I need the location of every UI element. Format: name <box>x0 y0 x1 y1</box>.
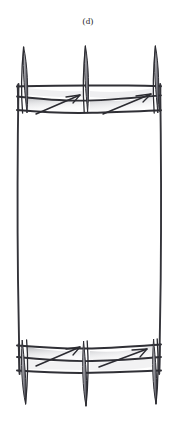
technical-sketch-drawing <box>0 0 176 444</box>
top-post-center <box>83 46 88 112</box>
top-post-right-body <box>155 46 159 113</box>
bottom-rail-lower <box>17 370 161 373</box>
bottom-rail-upper <box>17 344 161 348</box>
bottom-post-left-body <box>22 340 26 404</box>
top-corner-stub-left <box>18 85 19 111</box>
side-rail-right <box>159 84 161 374</box>
side-rail-group <box>18 84 161 374</box>
bottom-corner-stub-left <box>19 344 20 372</box>
top-post-right <box>153 46 158 113</box>
top-corner-stub-right <box>160 85 161 111</box>
figure-container: (d) <box>0 0 176 444</box>
top-post-center-body <box>85 46 89 112</box>
bottom-post-right-body <box>153 339 157 404</box>
top-post-left-body <box>23 47 27 113</box>
top-post-left-edge <box>22 47 24 113</box>
side-rail-left <box>18 84 20 374</box>
top-post-left <box>22 47 28 113</box>
bottom-corner-stub-right <box>159 344 160 372</box>
bottom-post-center-body <box>83 341 87 406</box>
